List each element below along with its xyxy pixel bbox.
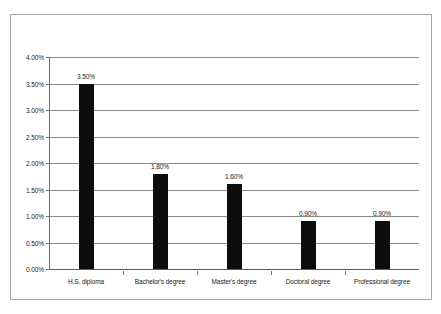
bar-value-label: 0.90% [299,210,317,217]
bar-value-label: 0.90% [373,210,391,217]
plot-area: 0.00%0.50%1.00%1.50%2.00%2.50%3.00%3.50%… [49,57,419,269]
category-label: Bachelor's degree [135,278,186,285]
y-tick-label: 0.00% [26,266,44,273]
category-label: H.S. diploma [68,278,104,285]
bar[interactable] [375,221,390,269]
y-tick-label: 1.50% [26,186,44,193]
y-tick-label: 0.50% [26,239,44,246]
y-tick-label: 3.00% [26,107,44,114]
bar[interactable] [79,84,94,270]
y-tick-label: 4.00% [26,54,44,61]
bar[interactable] [153,174,168,269]
category-label: Doctoral degree [286,278,331,285]
bar[interactable] [227,184,242,269]
y-axis-line [49,57,50,270]
category-separator-tick [271,271,272,275]
category-label: Professional degree [354,278,410,285]
chart-frame: 0.00%0.50%1.00%1.50%2.00%2.50%3.00%3.50%… [10,14,432,300]
gridline [49,84,419,85]
bar[interactable] [301,221,316,269]
category-separator-tick [123,271,124,275]
y-tick-label: 3.50% [26,80,44,87]
bar-value-label: 1.80% [151,163,169,170]
y-tick-label: 2.50% [26,133,44,140]
bar-value-label: 3.50% [77,73,95,80]
category-axis: H.S. diplomaBachelor's degreeMaster's de… [49,271,419,301]
category-separator-tick [345,271,346,275]
axis-baseline [49,269,419,270]
gridline [49,163,419,164]
y-tick-label: 1.00% [26,213,44,220]
y-tick-label: 2.00% [26,160,44,167]
gridline [49,110,419,111]
category-separator-tick [197,271,198,275]
gridline [49,137,419,138]
category-label: Master's degree [212,278,257,285]
bar-value-label: 1.60% [225,173,243,180]
gridline [49,57,419,58]
